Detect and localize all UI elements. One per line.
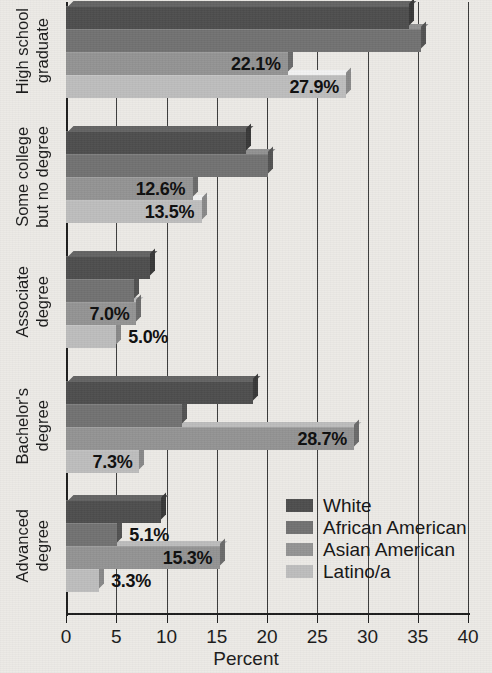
- x-axis-tick-label: 10: [156, 626, 177, 648]
- x-axis-title: Percent: [0, 648, 492, 670]
- x-axis-tick: [217, 615, 218, 623]
- x-axis-tick-label: 0: [61, 626, 72, 648]
- bar-side-face: [246, 124, 251, 151]
- bar-value-label: 13.5%: [145, 202, 195, 223]
- bar-front-face: [66, 6, 409, 29]
- x-axis-tick-label: 20: [256, 626, 277, 648]
- bar-front-face: [66, 154, 268, 177]
- bar-front-face: [66, 523, 117, 546]
- bar-side-face: [409, 0, 414, 26]
- bar-value-label: 5.0%: [128, 327, 168, 348]
- x-axis-line: [66, 613, 470, 615]
- bar-front-face: [66, 29, 421, 52]
- x-axis-tick-label: 5: [111, 626, 122, 648]
- bar: [66, 279, 134, 301]
- bar-value-label: 15.3%: [163, 548, 213, 569]
- y-axis-category-label: High schoolgraduate: [0, 6, 64, 97]
- bar-value-label: 28.7%: [297, 429, 347, 450]
- bar-front-face: [66, 404, 182, 427]
- legend-swatch: [286, 521, 313, 534]
- bar-value-label: 27.9%: [289, 77, 339, 98]
- bar-value-label: 7.3%: [93, 452, 133, 473]
- legend-label: White: [323, 496, 372, 515]
- bar-value-label: 3.3%: [111, 571, 151, 592]
- category-label-line: High school: [13, 8, 31, 94]
- bar-side-face: [136, 295, 141, 322]
- legend-swatch: [286, 543, 313, 556]
- bar-side-face: [253, 374, 258, 401]
- category-label-line: degree: [33, 388, 51, 465]
- x-axis-tick: [167, 615, 168, 623]
- bar-front-face: [66, 569, 99, 592]
- category-label-line: but no degree: [33, 126, 51, 228]
- bar: [66, 569, 99, 591]
- legend-item: White: [286, 494, 467, 516]
- bar: [66, 256, 150, 278]
- bar: [66, 325, 116, 347]
- bar-side-face: [202, 193, 207, 220]
- category-label-line: Advanced: [13, 509, 31, 582]
- x-axis-tick-label: 15: [206, 626, 227, 648]
- x-axis-tick: [317, 615, 318, 623]
- y-axis-category-label: Associatedegree: [0, 256, 64, 347]
- bar-top-face: [69, 376, 261, 381]
- x-axis-tick: [368, 615, 369, 623]
- legend-label: Latino/a: [323, 562, 391, 581]
- bar-side-face: [354, 420, 359, 447]
- category-label-line: Associate: [13, 266, 31, 338]
- category-label-line: degree: [33, 509, 51, 582]
- legend-item: Latino/a: [286, 560, 467, 582]
- bar: [66, 404, 182, 426]
- bar-value-label: 7.0%: [90, 304, 130, 325]
- x-axis-tick: [418, 615, 419, 623]
- bar: [66, 154, 268, 176]
- y-axis-category-label: Bachelor'sdegree: [0, 381, 64, 472]
- bar-top-face: [69, 126, 254, 131]
- category-label-line: degree: [33, 266, 51, 338]
- category-label-line: graduate: [33, 8, 51, 94]
- bar: [66, 6, 409, 28]
- bar-side-face: [421, 22, 426, 49]
- legend-item: Asian American: [286, 538, 467, 560]
- bar-top-face: [69, 251, 158, 256]
- bar-front-face: [66, 279, 134, 302]
- y-axis-category-label: Advanceddegree: [0, 500, 64, 591]
- bar: [66, 500, 161, 522]
- y-axis-category-label: Some collegebut no degree: [0, 131, 64, 222]
- x-axis-tick: [267, 615, 268, 623]
- x-axis-tick: [468, 615, 469, 623]
- bar-top-face: [69, 495, 169, 500]
- category-label-line: Some college: [13, 126, 31, 228]
- bar: [66, 29, 421, 51]
- legend-swatch: [286, 499, 313, 512]
- bar-front-face: [66, 256, 150, 279]
- bar-front-face: [66, 500, 161, 523]
- bar-value-label: 22.1%: [231, 54, 281, 75]
- bar: [66, 381, 253, 403]
- x-axis-tick-label: 30: [357, 626, 378, 648]
- bar: [66, 523, 117, 545]
- bar-side-face: [346, 68, 351, 95]
- category-label-line: Bachelor's: [13, 388, 31, 465]
- gridline: [468, 2, 469, 614]
- x-axis-tick-label: 25: [307, 626, 328, 648]
- bar: [66, 131, 246, 153]
- bar-side-face: [150, 249, 155, 276]
- legend-swatch: [286, 565, 313, 578]
- legend-label: African American: [323, 518, 467, 537]
- bar-chart: 0510152025303540 High schoolgraduateSome…: [0, 0, 492, 673]
- legend: WhiteAfrican AmericanAsian AmericanLatin…: [286, 494, 467, 582]
- bar-front-face: [66, 325, 116, 348]
- bar-top-face: [69, 1, 417, 6]
- bar-value-label: 12.6%: [136, 179, 186, 200]
- bar-side-face: [268, 147, 273, 174]
- x-axis-tick: [66, 615, 67, 623]
- legend-item: African American: [286, 516, 467, 538]
- bar-side-face: [220, 539, 225, 566]
- x-axis-tick: [116, 615, 117, 623]
- bar-front-face: [66, 131, 246, 154]
- x-axis-tick-label: 35: [407, 626, 428, 648]
- legend-label: Asian American: [323, 540, 455, 559]
- bar-front-face: [66, 381, 253, 404]
- x-axis-tick-label: 40: [457, 626, 478, 648]
